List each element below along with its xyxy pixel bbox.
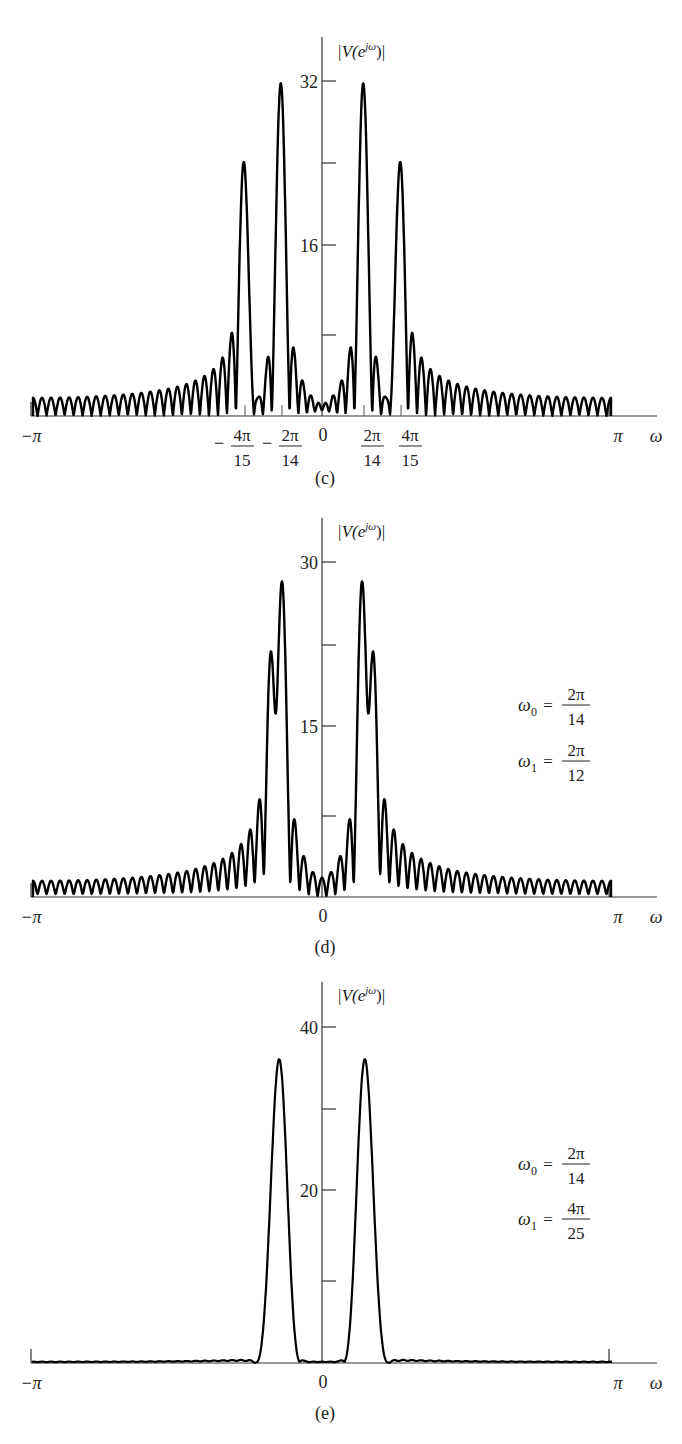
y-tick-label: 32 [300, 72, 318, 92]
svg-text:12: 12 [568, 766, 585, 785]
svg-text:−: − [214, 433, 224, 453]
panel-label: (d) [315, 937, 336, 958]
panel-c: |V(ejω)| 32 16 −π π ω 0 − 4π 15 − 2π 14 … [20, 37, 662, 489]
x-tick-label: π [613, 907, 623, 927]
x-tick-label: π [613, 426, 623, 446]
x-tick-label-neg-4pi-15: − 4π 15 [214, 426, 254, 470]
svg-text:=: = [543, 752, 553, 771]
svg-text:ω: ω [518, 751, 531, 771]
svg-text:4π: 4π [233, 426, 251, 445]
x-tick-label-neg-2pi-14: − 2π 14 [262, 426, 302, 470]
x-tick-label: 0 [319, 425, 328, 445]
y-tick-label: 30 [300, 553, 318, 573]
svg-text:2π: 2π [567, 1144, 585, 1163]
svg-text:14: 14 [282, 451, 300, 470]
annotation-omega1: ω 1 = 4π 25 [518, 1199, 590, 1243]
y-tick-label: 15 [300, 717, 318, 737]
panel-label: (e) [315, 1403, 335, 1424]
svg-text:ω: ω [518, 695, 531, 715]
panel-e: |V(ejω)| 40 20 −π π ω 0 ω 0 = 2π 14 ω 1 … [20, 982, 662, 1424]
x-tick-label: −π [20, 907, 42, 927]
x-tick-label: π [613, 1373, 623, 1393]
x-axis-label: ω [650, 1373, 663, 1393]
panel-d: |V(ejω)| 30 15 −π π ω 0 ω 0 = 2π 14 ω 1 … [20, 518, 662, 958]
x-axis-label: ω [650, 907, 663, 927]
y-axis-label: |V(ejω)| [337, 984, 385, 1005]
annotation-omega0: ω 0 = 2π 14 [518, 685, 590, 729]
svg-text:=: = [543, 1210, 553, 1229]
svg-text:14: 14 [364, 451, 382, 470]
y-tick-label: 20 [300, 1181, 318, 1201]
svg-text:4π: 4π [567, 1199, 585, 1218]
svg-text:ω: ω [518, 1209, 531, 1229]
svg-text:2π: 2π [363, 426, 381, 445]
x-tick-label-4pi-15: 4π 15 [399, 426, 422, 470]
x-tick-label: 0 [319, 1372, 328, 1392]
svg-text:15: 15 [402, 451, 419, 470]
x-tick-label-2pi-14: 2π 14 [361, 426, 384, 470]
panel-label: (c) [315, 468, 335, 489]
svg-text:25: 25 [568, 1224, 585, 1243]
svg-text:0: 0 [531, 705, 537, 719]
annotation-omega0: ω 0 = 2π 14 [518, 1144, 590, 1188]
x-tick-label: 0 [319, 906, 328, 926]
svg-text:2π: 2π [567, 741, 585, 760]
y-axis-label: |V(ejω)| [337, 40, 385, 61]
y-axis-label: |V(ejω)| [337, 520, 385, 541]
svg-text:=: = [543, 1155, 553, 1174]
svg-text:=: = [543, 696, 553, 715]
svg-text:14: 14 [568, 710, 586, 729]
y-tick-label: 40 [300, 1018, 318, 1038]
figure: |V(ejω)| 32 16 −π π ω 0 − 4π 15 − 2π 14 … [0, 0, 682, 1444]
y-tick-label: 16 [300, 236, 318, 256]
svg-text:ω: ω [518, 1154, 531, 1174]
svg-text:−: − [262, 433, 272, 453]
x-tick-label: −π [20, 426, 42, 446]
svg-text:14: 14 [568, 1169, 586, 1188]
svg-text:2π: 2π [281, 426, 299, 445]
x-tick-label: −π [20, 1373, 42, 1393]
svg-text:1: 1 [531, 1219, 537, 1233]
svg-text:0: 0 [531, 1164, 537, 1178]
svg-text:15: 15 [234, 451, 251, 470]
svg-text:4π: 4π [401, 426, 419, 445]
annotation-omega1: ω 1 = 2π 12 [518, 741, 590, 785]
svg-text:1: 1 [531, 761, 537, 775]
x-axis-label: ω [650, 426, 663, 446]
svg-text:2π: 2π [567, 685, 585, 704]
